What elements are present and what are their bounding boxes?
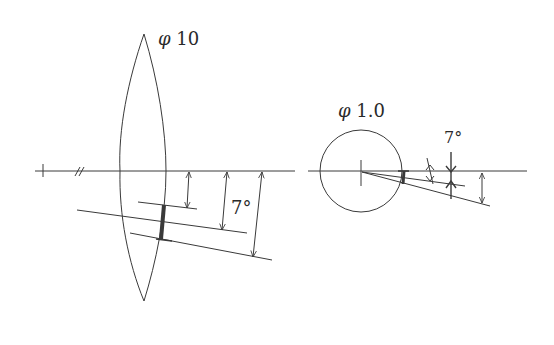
angle-label-left: 7° [231, 199, 251, 217]
phi-symbol: φ [158, 28, 171, 49]
left-lens-diagram [35, 34, 295, 301]
image-bar-right [403, 171, 404, 184]
image-bar-end [156, 239, 172, 241]
ray-line-lower [130, 233, 272, 260]
lens-outline [120, 34, 166, 301]
angle-arrow-3 [253, 172, 262, 257]
diameter-label-left: φ 10 [158, 30, 199, 48]
angle-arrow-2 [222, 172, 227, 230]
ray-line-short [138, 202, 197, 209]
angle-arrow-1 [187, 172, 189, 208]
optics-diagram [0, 0, 554, 345]
angle-label-right: 7° [444, 130, 462, 146]
diameter-value: 1.0 [356, 100, 385, 121]
diameter-label-right: φ 1.0 [338, 102, 385, 120]
phi-symbol: φ [338, 100, 351, 121]
image-bar [161, 205, 164, 239]
ray-right-lower [362, 172, 490, 206]
diameter-value: 10 [176, 28, 199, 49]
right-aperture-diagram [308, 130, 527, 212]
